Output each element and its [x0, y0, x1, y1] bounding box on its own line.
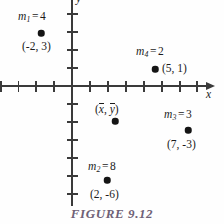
mass-value-m3: 3	[186, 108, 192, 120]
x-tick	[161, 81, 163, 92]
mass-label-m2: m2=8	[88, 160, 116, 175]
data-point-centroid	[112, 118, 119, 125]
x-tick	[18, 81, 20, 92]
mass-subscript-m4: 4	[145, 50, 149, 59]
x-tick	[89, 81, 91, 92]
y-tick	[67, 175, 78, 177]
y-tick	[67, 103, 78, 105]
y-tick	[67, 67, 78, 69]
equals-sign-m1: =	[32, 10, 39, 22]
mass-subscript-m3: 3	[173, 113, 177, 122]
x-tick	[125, 81, 127, 92]
coordinate-label-m4: (5, 1)	[162, 62, 187, 74]
y-tick	[67, 49, 78, 51]
data-point-m3	[185, 127, 192, 134]
mass-subscript-m1: 1	[27, 15, 31, 24]
y-tick	[67, 13, 78, 15]
mass-symbol-m2: m	[88, 160, 96, 172]
data-point-m4	[152, 66, 159, 73]
mass-value-m4: 2	[158, 45, 164, 57]
mass-label-m3: m3=3	[164, 108, 192, 123]
centroid-label: (x, y)	[95, 103, 119, 116]
x-tick	[53, 81, 55, 92]
coordinate-label-m1: (-2, 3)	[22, 40, 51, 52]
y-tick	[67, 139, 78, 141]
x-axis-line	[0, 85, 209, 87]
x-tick	[35, 81, 37, 92]
x-tick	[179, 81, 181, 92]
mass-symbol-m3: m	[164, 108, 172, 120]
equals-sign-m4: =	[150, 45, 157, 57]
x-axis-label: x	[206, 88, 211, 100]
x-tick	[0, 81, 2, 92]
y-tick	[67, 31, 78, 33]
mass-subscript-m2: 2	[97, 165, 101, 174]
y-axis-label: y	[76, 0, 81, 4]
mass-value-m1: 4	[40, 10, 46, 22]
mass-symbol-m1: m	[18, 10, 26, 22]
figure-container: x y m1=4 (-2, 3) m4=2 (5, 1) (x, y) m3=3…	[0, 0, 224, 224]
coordinate-label-m2: (2, -6)	[90, 188, 119, 200]
data-point-m2	[104, 177, 111, 184]
mass-value-m2: 8	[110, 160, 116, 172]
x-tick	[107, 81, 109, 92]
y-tick	[67, 121, 78, 123]
x-tick	[196, 81, 198, 92]
mass-label-m1: m1=4	[18, 10, 46, 25]
equals-sign-m3: =	[178, 108, 185, 120]
data-point-m1	[38, 30, 45, 37]
equals-sign-m2: =	[102, 160, 109, 172]
mass-symbol-m4: m	[136, 45, 144, 57]
y-tick	[67, 193, 78, 195]
mass-label-m4: m4=2	[136, 45, 164, 60]
centroid-paren-close: )	[115, 103, 119, 115]
coordinate-label-m3: (7, -3)	[167, 138, 196, 150]
figure-caption: FIGURE 9.12	[0, 206, 224, 222]
x-tick	[143, 81, 145, 92]
y-tick	[67, 157, 78, 159]
